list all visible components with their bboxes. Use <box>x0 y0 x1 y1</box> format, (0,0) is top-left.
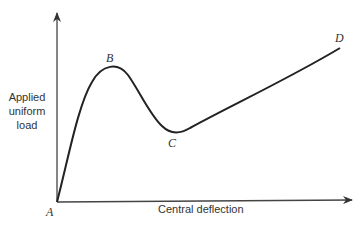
point-label-b: B <box>106 51 113 66</box>
point-label-c: C <box>168 136 176 151</box>
point-label-a: A <box>46 205 53 220</box>
diagram-canvas <box>0 0 362 225</box>
y-axis-label-line-3: load <box>2 118 52 132</box>
load-deflection-curve <box>57 48 340 202</box>
y-axis-label-line-1: Applied <box>2 90 52 104</box>
y-axis-label: Applied uniform load <box>2 90 52 132</box>
y-axis-label-line-2: uniform <box>2 104 52 118</box>
x-axis-label: Central deflection <box>158 203 244 215</box>
x-axis <box>57 200 352 202</box>
point-label-d: D <box>335 31 344 46</box>
